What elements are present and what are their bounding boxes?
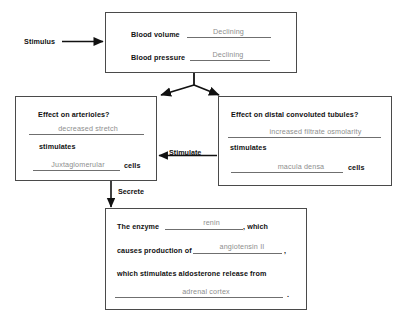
blood-volume-label: Blood volume [131, 30, 180, 39]
enzyme-answer-angiotensin[interactable]: angiotensin II [207, 242, 277, 251]
stimulate-connector-label: Stimulate [169, 148, 201, 157]
tubules-cells-label: cells [348, 163, 365, 172]
enzyme-line3-text: which stimulates aldosterone release fro… [117, 269, 267, 278]
tubules-answer-2-rule [231, 172, 343, 173]
arterioles-answer-2-rule [33, 170, 120, 171]
enzyme-answer-angiotensin-rule [193, 253, 282, 254]
arterioles-cells-label: cells [124, 161, 141, 170]
blood-pressure-label: Blood pressure [131, 53, 185, 62]
tubules-answer-2[interactable]: macula densa [263, 162, 339, 171]
enzyme-line2-suffix: , [284, 246, 286, 255]
enzyme-line1-prefix: The enzyme [117, 222, 159, 231]
blood-pressure-answer[interactable]: Declining [190, 50, 266, 59]
arterioles-stimulates-label: stimulates [39, 142, 76, 151]
enzyme-answer-renin-rule [165, 229, 243, 230]
enzyme-answer-adrenal-cortex[interactable]: adrenal cortex [163, 287, 249, 296]
arrow-split-to-right-box [194, 85, 219, 95]
blood-pressure-answer-rule [190, 60, 270, 61]
tubules-question: Effect on distal convoluted tubules? [231, 110, 358, 119]
enzyme-answer-adrenal-cortex-rule [115, 297, 283, 298]
arterioles-answer-2[interactable]: Juxtaglomerular [36, 160, 120, 169]
top-box-blood-status [105, 12, 297, 73]
arterioles-question: Effect on arterioles? [38, 110, 110, 119]
secrete-connector-label: Secrete [118, 187, 144, 196]
blood-volume-answer[interactable]: Declining [188, 27, 269, 36]
flowchart-diagram: Stimulus Blood volume Declining Blood pr… [0, 0, 407, 322]
tubules-answer-1-rule [228, 137, 381, 138]
arrow-split-to-left-box [161, 85, 194, 95]
arterioles-answer-1[interactable]: decreased stretch [36, 124, 140, 133]
blood-volume-answer-rule [187, 37, 271, 38]
arterioles-answer-1-rule [29, 134, 144, 135]
enzyme-line1-suffix: , which [243, 222, 268, 231]
enzyme-line2-prefix: causes production of [117, 246, 192, 255]
enzyme-line4-suffix: . [287, 290, 289, 299]
tubules-answer-1[interactable]: increased filtrate osmolarity [257, 127, 374, 136]
stimulus-label: Stimulus [24, 37, 55, 46]
tubules-stimulates-label: stimulates [230, 143, 267, 152]
enzyme-answer-renin[interactable]: renin [180, 218, 243, 227]
